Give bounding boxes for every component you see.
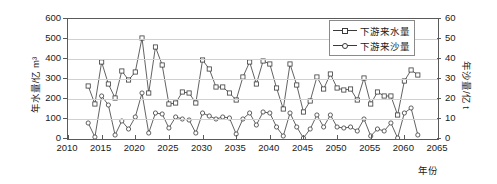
data-point-square	[100, 60, 104, 64]
y-axis-left-tick-label: 400	[27, 52, 61, 63]
data-point-circle	[268, 111, 272, 115]
data-point-circle	[100, 94, 104, 98]
data-point-square	[187, 91, 191, 95]
data-point-square	[93, 102, 97, 106]
y-axis-left-tick-label: 500	[27, 32, 61, 43]
data-point-square	[133, 70, 137, 74]
data-point-circle	[375, 127, 379, 131]
x-tick-mark	[270, 135, 271, 139]
legend-item-2[interactable]: 下游来沙量	[333, 38, 410, 53]
y-axis-right-tick-mark	[437, 138, 441, 139]
legend-swatch	[333, 26, 357, 36]
data-point-circle	[254, 123, 258, 127]
y-axis-right-title: 年沙量/亿 t	[460, 30, 474, 140]
y-axis-left-tick-mark	[63, 18, 67, 19]
x-tick-mark	[337, 135, 338, 139]
data-point-circle	[281, 134, 285, 138]
data-point-square	[301, 110, 305, 114]
data-point-circle	[113, 133, 117, 137]
data-point-square	[295, 83, 299, 87]
data-point-square	[342, 88, 346, 92]
data-point-circle	[288, 111, 292, 115]
data-point-square	[328, 72, 332, 76]
square-marker-icon	[342, 28, 348, 34]
data-point-square	[322, 87, 326, 91]
data-point-square	[382, 94, 386, 98]
y-axis-left-tick-label: 300	[27, 72, 61, 83]
data-point-circle	[409, 106, 413, 110]
data-point-square	[120, 69, 124, 73]
data-point-square	[227, 91, 231, 95]
data-point-square	[369, 102, 373, 106]
legend-label: 下游来沙量	[360, 39, 410, 53]
x-tick-mark	[303, 135, 304, 139]
y-axis-right-tick-mark	[437, 118, 441, 119]
data-point-circle	[342, 126, 346, 130]
data-point-square	[375, 90, 379, 94]
data-point-circle	[335, 125, 339, 129]
y-axis-right-tick-mark	[437, 98, 441, 99]
data-point-square	[274, 86, 278, 90]
data-point-circle	[86, 121, 90, 125]
y-axis-left-tick-label: 200	[27, 92, 61, 103]
data-point-square	[147, 91, 151, 95]
data-point-circle	[382, 129, 386, 133]
data-point-square	[248, 60, 252, 64]
gridline	[68, 119, 438, 120]
data-point-square	[180, 90, 184, 94]
data-point-circle	[396, 136, 400, 139]
x-axis-title: 年份	[418, 163, 438, 177]
y-axis-right-tick-mark	[437, 78, 441, 79]
x-tick-mark	[135, 135, 136, 139]
data-point-square	[348, 87, 352, 91]
y-axis-left-tick-label: 100	[27, 112, 61, 123]
y-axis-right-tick-label: 30	[445, 72, 479, 83]
y-axis-right-tick-label: 60	[445, 12, 479, 23]
y-axis-left-tick-mark	[63, 78, 67, 79]
x-axis-tick-label: 2065	[417, 142, 457, 153]
data-point-square	[174, 101, 178, 105]
x-tick-mark	[102, 135, 103, 139]
data-point-square	[281, 107, 285, 111]
y-axis-right-tick-label: 20	[445, 92, 479, 103]
data-point-square	[106, 82, 110, 86]
data-point-square	[221, 85, 225, 89]
data-point-square	[409, 68, 413, 72]
data-point-circle	[160, 112, 164, 116]
data-point-circle	[261, 110, 265, 114]
y-axis-right-tick-label: 40	[445, 52, 479, 63]
data-point-square	[207, 67, 211, 71]
gridline	[68, 59, 438, 60]
data-point-circle	[328, 113, 332, 117]
data-point-circle	[200, 111, 204, 115]
y-axis-right-tick-label: 10	[445, 112, 479, 123]
x-tick-mark	[404, 135, 405, 139]
y-axis-left-tick-mark	[63, 58, 67, 59]
x-tick-mark	[236, 135, 237, 139]
data-point-circle	[295, 125, 299, 129]
data-point-circle	[207, 114, 211, 118]
x-tick-mark	[203, 135, 204, 139]
data-point-circle	[194, 131, 198, 135]
data-point-circle	[315, 113, 319, 117]
data-point-square	[288, 62, 292, 66]
legend-swatch	[333, 41, 357, 51]
y-axis-left-tick-mark	[63, 38, 67, 39]
data-point-square	[389, 94, 393, 98]
y-axis-right-tick-mark	[437, 58, 441, 59]
y-axis-left-title: 年水量/亿 m³	[28, 30, 42, 140]
y-axis-left-tick-label: 600	[27, 12, 61, 23]
y-axis-right-tick-label: 50	[445, 32, 479, 43]
data-point-square	[86, 84, 90, 88]
gridline	[68, 99, 438, 100]
legend-item-1[interactable]: 下游来水量	[333, 23, 410, 38]
data-point-square	[167, 102, 171, 106]
y-axis-right-tick-mark	[437, 38, 441, 39]
x-tick-mark	[68, 135, 69, 139]
chart-figure: 年水量/亿 m³ 年沙量/亿 t 年份 0100200300400500600 …	[0, 0, 497, 184]
legend-label: 下游来水量	[360, 24, 410, 38]
data-point-circle	[389, 121, 393, 125]
gridline	[68, 79, 438, 80]
circle-marker-icon	[342, 43, 348, 49]
data-point-circle	[167, 126, 171, 130]
